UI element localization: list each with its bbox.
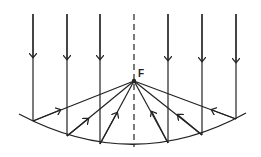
focal-point (132, 79, 136, 83)
focus-label: F (138, 68, 144, 79)
concave-mirror (19, 113, 246, 144)
parabolic-mirror-diagram: F (0, 0, 261, 157)
